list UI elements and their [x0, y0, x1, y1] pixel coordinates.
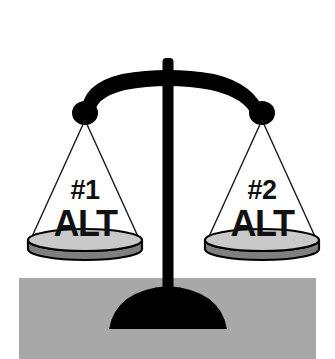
left-pan-word-label: ALT	[54, 203, 118, 244]
right-pan-word-label: ALT	[231, 203, 295, 244]
scale-post	[163, 58, 174, 302]
balance-scale-illustration: #1 ALT #2 ALT	[0, 0, 335, 359]
right-pan-number-label: #2	[247, 175, 276, 205]
left-pan-number-label: #1	[70, 175, 100, 205]
balance-scale-graphic: #1 ALT #2 ALT	[0, 0, 335, 359]
